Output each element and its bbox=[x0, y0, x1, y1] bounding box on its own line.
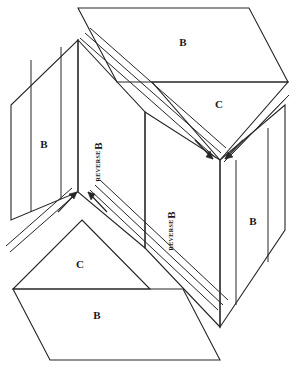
label-left-center-reverse: REVERSE bbox=[95, 150, 101, 181]
bottom-arrowheads bbox=[58, 192, 107, 212]
label-bottom-flap-c: C bbox=[76, 258, 84, 270]
label-center-b: B bbox=[165, 211, 177, 219]
label-center-reverse: REVERSE bbox=[168, 219, 174, 250]
folding-diagram: B C B B REVERSE B REVERSE B C B bbox=[0, 0, 299, 379]
label-center-b-group: B bbox=[165, 211, 177, 219]
center-panel-shape bbox=[145, 112, 220, 327]
label-left-center-group: B bbox=[92, 142, 104, 150]
label-center-reverse-group: REVERSE bbox=[168, 219, 174, 250]
bottom-flap-c-shape bbox=[13, 220, 150, 289]
label-bottom-panel-b: B bbox=[93, 309, 101, 321]
bottom-panel-b-shape bbox=[13, 289, 220, 360]
label-top-flap-c: C bbox=[215, 98, 223, 110]
left-panel-shape bbox=[11, 40, 78, 220]
diagram-root: B C B B REVERSE B REVERSE B C B bbox=[0, 0, 299, 379]
lower-right-fold-band bbox=[90, 180, 228, 310]
label-left-center-b: B bbox=[92, 142, 104, 150]
upper-fold-band bbox=[80, 28, 226, 158]
label-top-panel-b: B bbox=[179, 36, 187, 48]
label-left-panel-b: B bbox=[40, 138, 48, 150]
label-left-center-reverse-group: REVERSE bbox=[95, 150, 101, 181]
label-right-panel-b: B bbox=[249, 215, 257, 227]
